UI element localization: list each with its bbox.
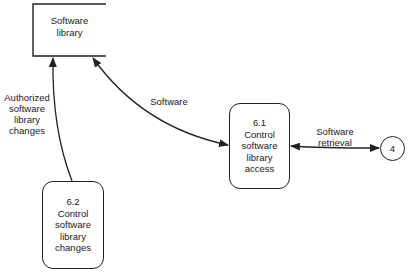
external-entity-4[interactable]: 4 [380, 136, 405, 161]
data-store-label-line: Software [33, 15, 106, 27]
flow-label-authorized-changes: Authorized software library changes [2, 92, 52, 136]
data-store-label-line: library [33, 27, 106, 39]
flow-authorized-changes [53, 58, 72, 181]
flow-label-software: Software [144, 96, 194, 107]
process-6-2-control-software-library-changes[interactable]: 6.2 Control software library changes [42, 181, 104, 269]
data-store-software-library[interactable]: Software library [33, 15, 106, 38]
process-6-1-control-software-library-access[interactable]: 6.1 Control software library access [229, 103, 290, 189]
flow-label-software-retrieval: Software retrieval [305, 126, 365, 148]
